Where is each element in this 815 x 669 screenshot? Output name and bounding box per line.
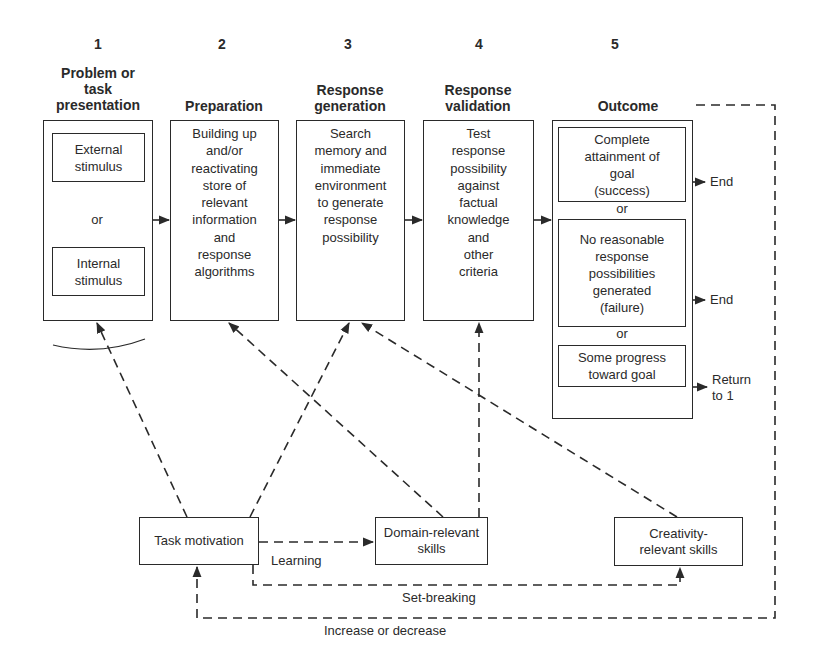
stage-2-box: Building up and/or reactivating store of… [170,120,279,321]
stage-5-title: Outcome [578,98,678,114]
return-label: Return to 1 [712,372,751,404]
learning-label: Learning [271,553,322,569]
stage-1-title: Problem or task presentation [38,65,158,113]
stage-5-outcome-box: Complete attainment of goal (success) or… [552,120,693,419]
outcome-success-box: Complete attainment of goal (success) [558,127,686,202]
dashed-motivation-to-stage3 [250,323,349,517]
stage-3-description: Search memory and immediate environment … [297,121,404,246]
outcome-or-1: or [553,201,691,216]
stage-4-title: Response validation [418,82,538,114]
end-label-failure: End [710,292,733,308]
stage-4-number: 4 [459,36,499,52]
outcome-or-2: or [553,326,691,341]
stage-2-title: Preparation [165,98,283,114]
stage-3-title: Response generation [290,82,410,114]
stage-1-or: or [44,212,150,227]
task-motivation-box: Task motivation [139,517,259,565]
stage-3-box: Search memory and immediate environment … [296,120,405,321]
stage-3-number: 3 [328,36,368,52]
dashed-domain-to-stage2 [229,323,443,517]
internal-stimulus-box: Internal stimulus [52,247,145,296]
external-stimulus-box: External stimulus [52,133,145,182]
creativity-relevant-skills-box: Creativity- relevant skills [614,517,743,566]
dashed-motivation-to-stage1 [97,323,187,517]
outcome-progress-box: Some progress toward goal [558,345,686,387]
domain-relevant-skills-box: Domain-relevant skills [375,517,488,565]
stage-1-number: 1 [78,36,118,52]
stage-4-description: Test response possibility against factua… [424,121,533,281]
stage-2-number: 2 [202,36,242,52]
stage-1-box: External stimulus or Internal stimulus [43,120,153,321]
arc-mark [53,339,145,349]
outcome-failure-box: No reasonable response possibilities gen… [558,219,686,327]
stage-4-box: Test response possibility against factua… [423,120,534,321]
end-label-success: End [710,174,733,190]
set-breaking-label: Set-breaking [402,590,476,606]
stage-2-description: Building up and/or reactivating store of… [171,121,278,281]
increase-decrease-label: Increase or decrease [324,623,446,639]
stage-5-number: 5 [595,36,635,52]
